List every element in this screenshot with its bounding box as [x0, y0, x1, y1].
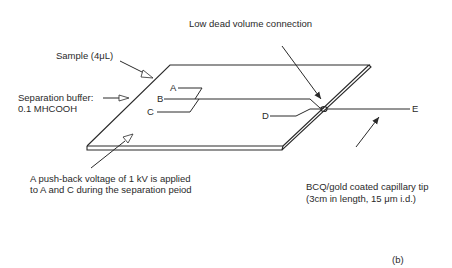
label-separation-buffer: Separation buffer: [18, 92, 93, 103]
label-channel-b: B [157, 93, 163, 104]
label-push-back-voltage-detail: to A and C during the separation peiod [30, 184, 192, 195]
label-separation-buffer-concentration: 0.1 MHCOOH [18, 103, 77, 114]
label-capillary-tip: BCQ/gold coated capillary tip [306, 181, 429, 192]
label-capillary-dimensions: (3cm in length, 15 μm i.d.) [306, 193, 416, 204]
arrow-push-back [91, 134, 133, 168]
microchip-diagram [0, 0, 452, 268]
label-low-dead-volume: Low dead volume connection [189, 18, 312, 29]
arrow-low-dead-volume [282, 46, 321, 99]
label-channel-e: E [412, 103, 418, 114]
channel-d [270, 109, 322, 116]
label-channel-d: D [262, 110, 269, 121]
arrow-capillary-tip [356, 117, 379, 147]
channel-a [178, 88, 202, 99]
channel-network [157, 88, 410, 116]
panel-label: (b) [392, 254, 404, 265]
label-push-back-voltage: A push-back voltage of 1 kV is applied [30, 173, 191, 184]
label-sample: Sample (4μL) [56, 50, 113, 61]
channel-b [164, 99, 324, 108]
label-channel-c: C [147, 106, 154, 117]
arrow-sample [120, 61, 153, 78]
label-channel-a: A [170, 82, 176, 93]
arrow-separation-buffer [103, 95, 129, 101]
